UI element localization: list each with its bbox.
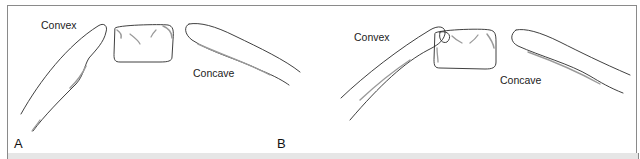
panel-b-concave-label: Concave: [500, 74, 541, 86]
panel-a-concave-label: Concave: [193, 67, 234, 79]
panel-a-carpal-block: [114, 25, 173, 62]
panel-b-carpal-block: [434, 29, 496, 69]
panel-a-letter: A: [14, 136, 23, 151]
panel-a-convex-bone: [21, 24, 107, 131]
diagram-illustration: [0, 0, 640, 159]
panel-b-letter: B: [277, 136, 286, 151]
panel-b-convex-label: Convex: [354, 31, 390, 43]
panel-a-convex-label: Convex: [41, 19, 77, 31]
